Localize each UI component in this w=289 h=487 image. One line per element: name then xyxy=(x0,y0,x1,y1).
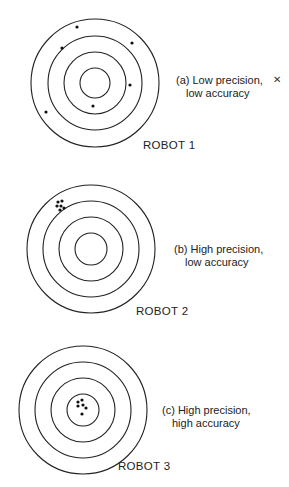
caption-b-line1: (b) High precision, xyxy=(174,243,263,256)
robot-1-label: ROBOT 1 xyxy=(143,139,195,151)
caption-c-line2: high accuracy xyxy=(172,417,240,430)
target-ring-1 xyxy=(19,346,147,474)
shot-dot xyxy=(81,403,84,406)
shot-dot xyxy=(60,46,63,49)
caption-c-line1: (c) High precision, xyxy=(162,404,251,417)
shot-dot xyxy=(59,204,62,207)
shot-dot xyxy=(75,25,78,28)
shot-dot xyxy=(76,400,79,403)
caption-a-line1: (a) Low precision, xyxy=(176,74,263,87)
target-ring-1 xyxy=(27,185,155,313)
shot-dot xyxy=(44,110,47,113)
target-robot-2 xyxy=(27,185,155,313)
target-ring-2 xyxy=(35,362,131,458)
shot-dot xyxy=(56,200,59,203)
robot-2-label: ROBOT 2 xyxy=(136,305,188,317)
target-robot-3 xyxy=(19,346,147,474)
caption-b-line2: low accuracy xyxy=(185,256,249,269)
shot-dot xyxy=(80,398,83,401)
target-ring-4 xyxy=(75,233,107,265)
scan-mark-icon: ✕ xyxy=(273,74,281,85)
target-ring-3 xyxy=(64,52,126,114)
shot-dot xyxy=(128,83,131,86)
shot-dot xyxy=(80,412,83,415)
target-ring-2 xyxy=(43,201,139,297)
shot-dot xyxy=(60,199,63,202)
caption-a-line2: low accuracy xyxy=(186,87,250,100)
target-ring-1 xyxy=(31,19,159,147)
shot-dot xyxy=(130,41,133,44)
robot-3-label: ROBOT 3 xyxy=(118,460,170,472)
shot-dot xyxy=(84,406,87,409)
target-ring-3 xyxy=(51,378,115,442)
target-ring-2 xyxy=(48,36,142,130)
target-robot-1 xyxy=(31,19,159,147)
target-ring-3 xyxy=(59,217,123,281)
target-ring-4 xyxy=(80,68,110,98)
shot-dot xyxy=(58,208,61,211)
shot-dot xyxy=(91,104,94,107)
shot-dot xyxy=(55,204,58,207)
shot-dot xyxy=(76,404,79,407)
shot-dot xyxy=(62,206,65,209)
